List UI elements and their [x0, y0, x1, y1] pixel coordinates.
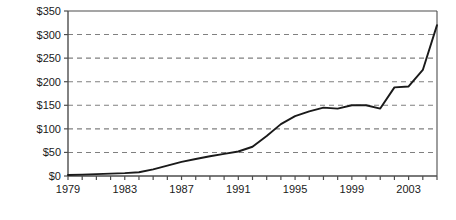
- x-axis-tick-label: 1995: [283, 183, 307, 195]
- y-axis-tick-label: $150: [37, 99, 61, 111]
- x-axis-tick-label: 2003: [396, 183, 420, 195]
- gridlines-group: [68, 35, 437, 153]
- y-axis-tick-label: $250: [37, 52, 61, 64]
- y-axis-tick-label: $200: [37, 76, 61, 88]
- x-axis-tick-label: 1983: [113, 183, 137, 195]
- x-axis-tick-label: 1979: [56, 183, 80, 195]
- y-axis-tick-label: $50: [43, 146, 61, 158]
- y-axis-tick-label: $100: [37, 123, 61, 135]
- y-axis-tick-label: $300: [37, 29, 61, 41]
- line-chart: $0$50$100$150$200$250$300$350 1979198319…: [0, 0, 456, 220]
- y-axis-tick-label: $0: [49, 170, 61, 182]
- x-axis-tick-label: 1987: [169, 183, 193, 195]
- y-axis-tick-label: $350: [37, 5, 61, 17]
- x-axis-tick-label: 1999: [340, 183, 364, 195]
- x-axis-tick-label: 1991: [226, 183, 250, 195]
